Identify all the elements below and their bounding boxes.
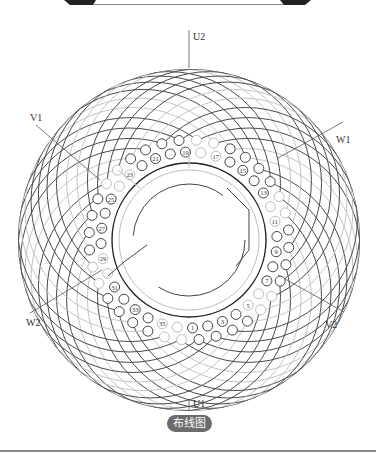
svg-text:17: 17 [213, 153, 220, 160]
svg-text:29: 29 [100, 255, 107, 262]
label-W2: W2 [26, 317, 40, 328]
divider [0, 450, 376, 452]
svg-text:31: 31 [111, 284, 118, 291]
label-U1: U1 [193, 398, 205, 409]
svg-text:1: 1 [191, 324, 194, 331]
winding-diagram: 1357911131517192123252729313335 U2 U1 V1… [0, 0, 376, 455]
label-U2: U2 [193, 31, 205, 42]
end-winding-arcs [17, 68, 361, 412]
svg-text:19: 19 [182, 149, 189, 156]
svg-text:25: 25 [108, 196, 115, 203]
svg-text:11: 11 [272, 218, 278, 225]
svg-text:33: 33 [132, 306, 139, 313]
svg-text:21: 21 [152, 155, 159, 162]
svg-text:9: 9 [275, 248, 278, 255]
svg-text:13: 13 [260, 189, 267, 196]
svg-text:3: 3 [221, 318, 224, 325]
diagram-caption-badge: 布线图 [167, 415, 212, 432]
label-W1: W1 [336, 134, 350, 145]
svg-text:27: 27 [99, 225, 106, 232]
svg-text:35: 35 [159, 320, 166, 327]
label-V1: V1 [30, 112, 42, 123]
svg-text:5: 5 [247, 302, 250, 309]
label-V2: V2 [325, 319, 337, 330]
svg-text:15: 15 [240, 167, 247, 174]
